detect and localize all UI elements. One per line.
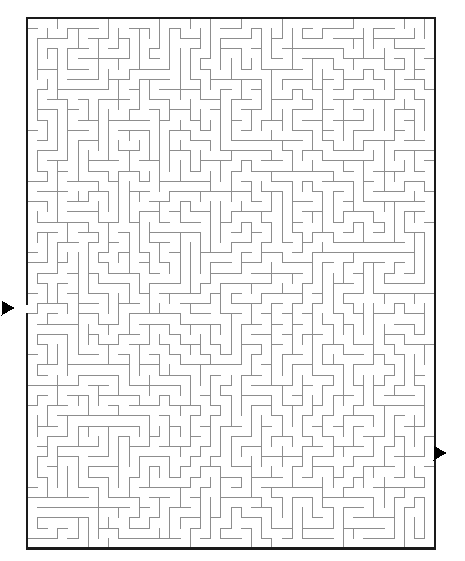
maze-figure: Rectangular Maze Puzzle	[0, 0, 465, 561]
maze-canvas[interactable]	[0, 0, 465, 561]
